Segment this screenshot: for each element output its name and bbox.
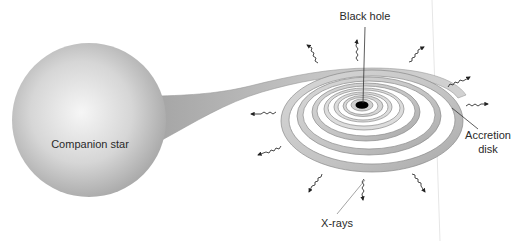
- x-ray-binary-diagram: [0, 0, 519, 241]
- x-ray-arrow-icon: [356, 40, 358, 61]
- x-ray-arrow-icon: [466, 104, 488, 106]
- accretion-disk: [281, 70, 463, 172]
- black-hole: [356, 101, 369, 109]
- x-ray-arrow-icon: [409, 47, 424, 62]
- accretion-disk-label-line1: Accretion: [462, 129, 514, 142]
- x-ray-arrow-icon: [251, 112, 276, 114]
- x-ray-arrow-icon: [258, 146, 281, 155]
- black-hole-label: Black hole: [335, 10, 395, 23]
- accretion-disk-label-line2: disk: [462, 143, 514, 156]
- x-ray-arrow-icon: [412, 174, 425, 192]
- companion-star: [12, 43, 166, 197]
- x-rays-label: X-rays: [317, 217, 357, 230]
- x-ray-arrow-icon: [309, 174, 322, 192]
- x-rays-leader-line: [337, 180, 365, 214]
- x-ray-arrow-icon: [307, 45, 318, 63]
- companion-star-label: Companion star: [50, 138, 130, 151]
